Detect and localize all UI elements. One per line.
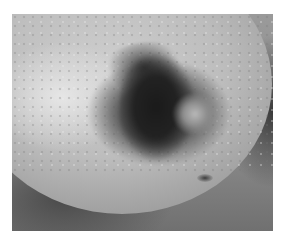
satellite-spot [197, 174, 213, 182]
lesion-light-patch [172, 92, 218, 136]
lesion-photo [12, 14, 273, 231]
